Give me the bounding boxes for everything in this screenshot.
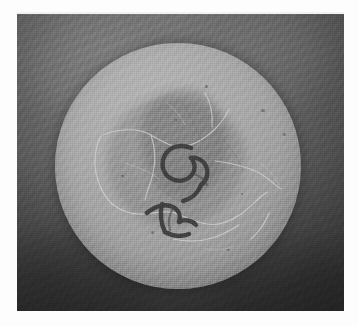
film-grain-coarse: [17, 14, 344, 311]
page-background: Black-and-white photograph of a circular…: [0, 0, 358, 326]
photograph: Black-and-white photograph of a circular…: [17, 14, 344, 311]
